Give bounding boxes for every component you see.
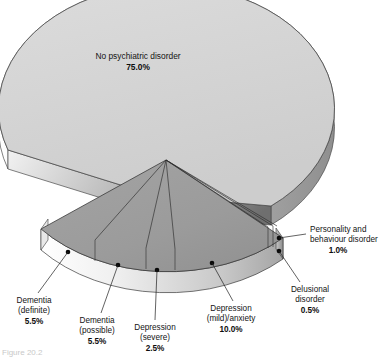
slice-label-no-psychiatric-disorder: No psychiatric disorder xyxy=(95,51,180,61)
callout-delusional-disorder[interactable]: Delusional disorder 0.5% xyxy=(277,249,330,315)
callout-label-dementia-definite-line1: Dementia xyxy=(16,296,51,305)
pie-chart-figure: No psychiatric disorder 75.0% xyxy=(0,0,386,357)
callout-value-personality-behaviour-disorder: 1.0% xyxy=(329,246,348,255)
pie-chart-canvas: No psychiatric disorder 75.0% xyxy=(0,0,386,357)
callout-label-dementia-possible-line2: (possible) xyxy=(79,326,115,335)
figure-caption: Figure 20.2 xyxy=(2,348,43,357)
callout-leader-delusional-disorder xyxy=(279,251,300,282)
callout-label-dementia-possible-line1: Dementia xyxy=(79,316,114,325)
callout-label-personality-behaviour-disorder-line2: behaviour disorder xyxy=(310,235,378,244)
callout-leader-personality-behaviour-disorder xyxy=(279,234,306,238)
callout-label-depression-severe-line1: Depression xyxy=(134,323,176,332)
callout-label-dementia-definite-line2: (definite) xyxy=(18,306,50,315)
slice-value-no-psychiatric-disorder: 75.0% xyxy=(126,62,150,72)
callout-label-delusional-disorder-line1: Delusional xyxy=(291,285,329,294)
callout-value-depression-mild-anxiety: 10.0% xyxy=(219,325,243,334)
callout-personality-behaviour-disorder[interactable]: Personality and behaviour disorder 1.0% xyxy=(277,225,378,255)
callout-value-delusional-disorder: 0.5% xyxy=(301,306,320,315)
callout-value-dementia-definite: 5.5% xyxy=(25,317,44,326)
callout-label-delusional-disorder-line2: disorder xyxy=(295,295,325,304)
callout-label-personality-behaviour-disorder-line1: Personality and xyxy=(310,225,367,234)
callout-value-depression-severe: 2.5% xyxy=(146,344,165,353)
callout-label-depression-severe-line2: (severe) xyxy=(140,333,170,342)
callout-label-depression-mild-anxiety-line1: Depression xyxy=(210,304,252,313)
callout-label-depression-mild-anxiety-line2: (mild)/anxiety xyxy=(207,314,257,323)
callout-value-dementia-possible: 5.5% xyxy=(88,337,107,346)
